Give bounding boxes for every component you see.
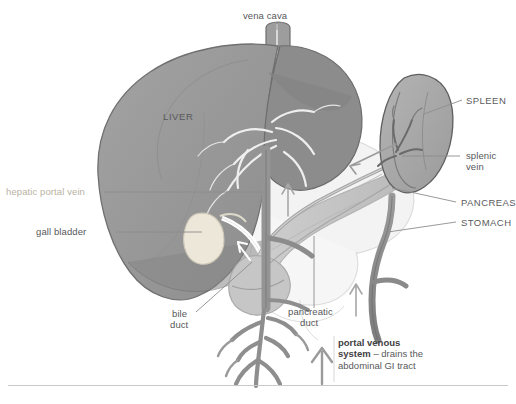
label-liver: LIVER — [163, 111, 193, 122]
label-pancreas: PANCREAS — [461, 197, 516, 208]
label-gall-bladder: gall bladder — [36, 226, 86, 237]
label-bile-duct-line1: bile — [172, 308, 187, 319]
label-splenic-vein-line1: splenic — [466, 150, 496, 161]
label-vena-cava: vena cava — [243, 10, 287, 21]
label-pancreatic-duct-line2: duct — [300, 317, 318, 328]
portal-venous-tributaries — [232, 310, 296, 386]
label-pancreatic-duct-line1: pancreatic — [288, 306, 333, 317]
diagram-canvas: vena cava LIVER hepatic portal vein gall… — [0, 0, 516, 404]
label-stomach: STOMACH — [461, 217, 511, 228]
spleen-organ — [378, 75, 453, 193]
portal-venous-tributaries-thin — [218, 334, 308, 376]
label-splenic-vein-line2: vein — [466, 161, 484, 172]
label-bile-duct-line2: duct — [170, 319, 188, 330]
caption-portal-venous-system: portal venous system – drains the abdomi… — [338, 337, 430, 371]
label-spleen: SPLEEN — [466, 95, 506, 106]
bottom-divider — [8, 385, 508, 386]
anatomy-illustration — [0, 0, 516, 404]
label-hepatic-portal-vein: hepatic portal vein — [6, 186, 85, 197]
